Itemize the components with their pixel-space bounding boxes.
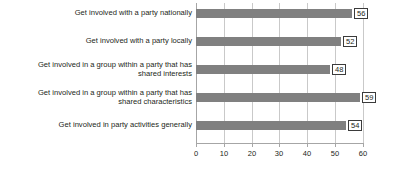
bar (196, 9, 352, 18)
bar (196, 93, 360, 102)
bar-row: Get involved with a party nationally 56 (0, 6, 399, 34)
x-tick-label-50: 50 (331, 149, 339, 158)
bar (196, 65, 330, 74)
value-label: 48 (332, 64, 346, 75)
category-label: Get involved with a party nationally (0, 8, 192, 17)
x-tick-label-10: 10 (220, 149, 228, 158)
x-tick-label-40: 40 (303, 149, 311, 158)
category-label: Get involved in a group within a party t… (0, 88, 192, 107)
category-label: Get involved with a party locally (0, 36, 192, 45)
x-tick-label-60: 60 (359, 149, 367, 158)
bar-row: Get involved in party activities general… (0, 118, 399, 146)
category-label: Get involved in party activities general… (0, 120, 192, 129)
x-tick-label-0: 0 (194, 149, 198, 158)
value-label: 54 (348, 120, 362, 131)
bar-row: Get involved in a group within a party t… (0, 62, 399, 90)
x-tick-label-20: 20 (248, 149, 256, 158)
bar-row: Get involved in a group within a party t… (0, 90, 399, 118)
value-label: 56 (354, 8, 368, 19)
x-tick-label-30: 30 (275, 149, 283, 158)
bar (196, 121, 346, 130)
value-label: 52 (343, 36, 357, 47)
category-label: Get involved in a group within a party t… (0, 60, 192, 79)
value-label: 59 (362, 92, 376, 103)
bar-row: Get involved with a party locally 52 (0, 34, 399, 62)
bar-chart: 0 10 20 30 40 50 60 Get involved with a … (0, 0, 399, 173)
bar (196, 37, 341, 46)
